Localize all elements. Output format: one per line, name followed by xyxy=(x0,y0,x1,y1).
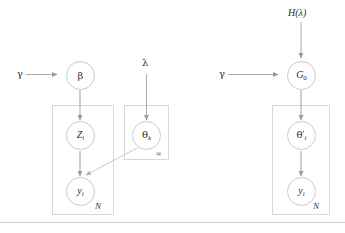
node-y-i-left-label: yi xyxy=(77,186,83,198)
node-z-i-label: Zi xyxy=(77,130,85,142)
right-gamma-label: γ xyxy=(219,69,225,79)
diagram-canvas: N ∞ N γ λ xyxy=(0,0,345,233)
node-beta-label: β xyxy=(78,71,84,81)
node-z-i: Zi xyxy=(66,121,95,150)
h-lambda-label: H(λ) xyxy=(288,8,306,18)
node-g0: G0 xyxy=(287,61,316,90)
left-gamma-label: γ xyxy=(17,69,23,79)
node-beta: β xyxy=(66,61,95,90)
footer-divider xyxy=(0,222,345,223)
lambda-label: λ xyxy=(142,58,148,68)
node-theta-k-label: θk xyxy=(142,130,151,142)
node-theta-i-prime: θ′i xyxy=(287,121,316,150)
node-theta-i-prime-label: θ′i xyxy=(297,130,307,142)
node-y-i-right-label: yi xyxy=(298,186,304,198)
left-plate-infinity-label: ∞ xyxy=(156,149,161,158)
node-y-i-left: yi xyxy=(66,177,95,206)
left-plate-n-label: N xyxy=(95,201,101,211)
node-y-i-right: yi xyxy=(287,177,316,206)
right-plate-n-label: N xyxy=(313,201,319,211)
node-theta-k: θk xyxy=(132,121,161,150)
node-g0-label: G0 xyxy=(296,70,307,82)
